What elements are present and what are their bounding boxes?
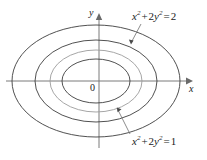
level-curves-figure: y x 0 x2+2y2=2 x2+2y2=1	[0, 0, 207, 160]
equation-label-inner: x2+2y2=1	[132, 136, 176, 147]
eq-inner-exp2: 2	[159, 134, 163, 142]
leader-line-inner	[118, 110, 130, 134]
eq-inner-equals: =	[163, 135, 171, 147]
eq-outer-equals: =	[163, 10, 171, 22]
eq-outer-exp2: 2	[159, 9, 163, 17]
origin-label: 0	[90, 83, 95, 93]
eq-outer-value: 2	[171, 10, 177, 22]
eq-outer-plus: +	[140, 10, 148, 22]
eq-inner-plus: +	[140, 135, 148, 147]
y-axis-arrowhead	[96, 13, 102, 20]
equation-label-outer: x2+2y2=2	[132, 11, 176, 22]
eq-inner-value: 1	[171, 135, 177, 147]
y-axis-label: y	[89, 8, 93, 18]
leader-arrowhead-outer	[129, 40, 134, 45]
x-axis-label: x	[189, 84, 193, 94]
